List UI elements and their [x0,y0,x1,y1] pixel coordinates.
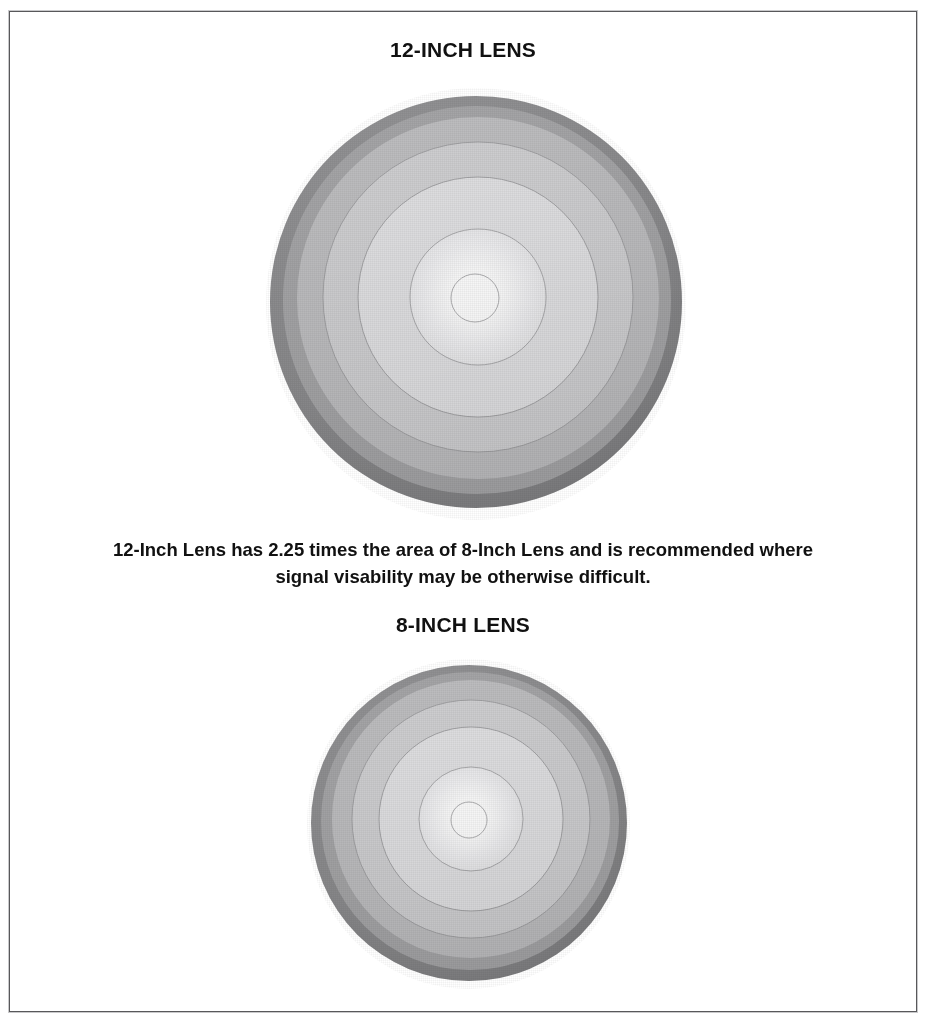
heading-12-inch-lens: 12-INCH LENS [10,38,916,62]
lens-diagram-8-inch [307,659,630,989]
lens-8-inch-svg [307,659,630,989]
lens-diagram-12-inch [266,88,686,520]
page-bleed-text [0,1014,926,1025]
lens-shade-overlay [311,665,627,981]
comparison-caption: 12-Inch Lens has 2.25 times the area of … [93,537,833,591]
lens-comparison-page: 12-INCH LENS [0,0,926,1025]
heading-8-inch-lens: 8-INCH LENS [10,613,916,637]
page-frame-border: 12-INCH LENS [9,11,917,1012]
lens-12-inch-svg [266,88,686,520]
lens-shade-overlay [270,96,682,508]
